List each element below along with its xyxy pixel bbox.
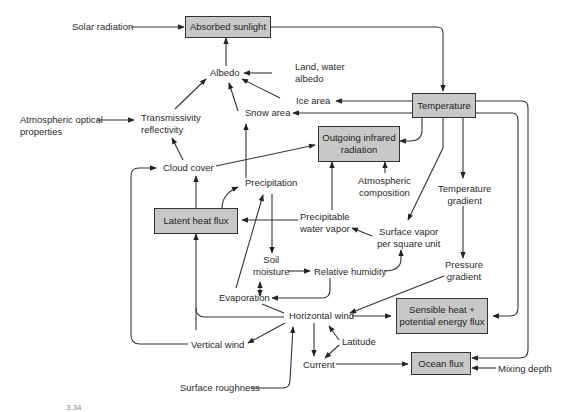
node-surface-roughness: Surface roughness xyxy=(180,382,260,394)
box-temperature: Temperature xyxy=(412,93,476,118)
node-latitude: Latitude xyxy=(342,336,376,348)
box-outgoing-infrared-line2: radiation xyxy=(341,144,377,156)
node-soil-moisture-line2: moisture xyxy=(253,266,289,278)
node-land-water-albedo-line1: Land, water xyxy=(295,61,345,73)
node-albedo: Albedo xyxy=(210,67,240,79)
node-solar-radiation: Solar radiation xyxy=(72,21,133,33)
node-temperature-gradient: Temperature gradient xyxy=(438,183,491,206)
node-precipitation: Precipitation xyxy=(245,177,297,189)
node-soil-moisture-line1: Soil xyxy=(253,254,289,266)
box-sensible-heat-line2: potential energy flux xyxy=(399,316,484,328)
node-relative-humidity: Relative humidity xyxy=(314,266,386,278)
node-evaporation: Evaporation xyxy=(219,292,270,304)
node-pressure-gradient-line2: gradient xyxy=(445,271,483,283)
node-snow-area: Snow area xyxy=(245,107,290,119)
node-transmissivity-line1: Transmissivity xyxy=(141,112,201,124)
node-atm-composition-line1: Atmospheric xyxy=(358,175,411,187)
node-atm-optical-line2: properties xyxy=(20,126,103,138)
node-mixing-depth: Mixing depth xyxy=(498,363,552,375)
node-land-water-albedo-line2: albedo xyxy=(295,73,345,85)
node-surface-vapor: Surface vapor per square unit xyxy=(377,226,440,249)
node-precipitable-line1: Precipitable xyxy=(300,211,350,223)
node-atm-composition-line2: composition xyxy=(358,187,411,199)
node-precipitable-line2: water vapor xyxy=(300,223,350,235)
box-latent-heat-flux: Latent heat flux xyxy=(154,208,238,234)
node-surface-vapor-line2: per square unit xyxy=(377,238,440,250)
node-atm-optical-line1: Atmospheric optical xyxy=(20,114,103,126)
node-atmospheric-optical-properties: Atmospheric optical properties xyxy=(20,114,103,137)
node-temperature-gradient-line2: gradient xyxy=(438,195,491,207)
node-temperature-gradient-line1: Temperature xyxy=(438,183,491,195)
node-soil-moisture: Soil moisture xyxy=(253,254,289,277)
box-sensible-heat-line1: Sensible heat + xyxy=(409,304,475,316)
node-pressure-gradient: Pressure gradient xyxy=(445,259,483,282)
box-outgoing-infrared: Outgoing infrared radiation xyxy=(318,126,400,162)
box-absorbed-sunlight: Absorbed sunlight xyxy=(185,16,271,38)
box-outgoing-infrared-line1: Outgoing infrared xyxy=(322,132,395,144)
node-horizontal-wind: Horizontal wind xyxy=(289,310,354,322)
node-ice-area: Ice area xyxy=(296,95,330,107)
node-precipitable-water-vapor: Precipitable water vapor xyxy=(300,211,350,234)
node-vertical-wind: Vertical wind xyxy=(191,339,244,351)
connection-arrows xyxy=(0,0,564,412)
figure-caption: 3.34 xyxy=(66,403,82,412)
node-land-water-albedo: Land, water albedo xyxy=(295,61,345,84)
node-cloud-cover: Cloud cover xyxy=(163,162,214,174)
node-atmospheric-composition: Atmospheric composition xyxy=(358,175,411,198)
node-transmissivity-line2: reflectivity xyxy=(141,124,201,136)
node-transmissivity-reflectivity: Transmissivity reflectivity xyxy=(141,112,201,135)
node-surface-vapor-line1: Surface vapor xyxy=(377,226,440,238)
box-ocean-flux: Ocean flux xyxy=(411,352,471,375)
node-current: Current xyxy=(303,359,335,371)
node-pressure-gradient-line1: Pressure xyxy=(445,259,483,271)
box-sensible-heat: Sensible heat + potential energy flux xyxy=(396,298,488,334)
